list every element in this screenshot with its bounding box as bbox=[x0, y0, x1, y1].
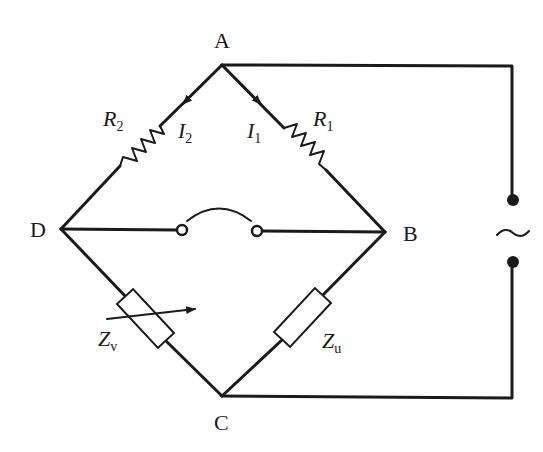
resistor-r2-icon bbox=[120, 126, 164, 166]
wire-switch-b bbox=[262, 231, 385, 232]
branch-d-b-detector bbox=[61, 209, 385, 237]
label-zu-subscript: u bbox=[334, 341, 341, 356]
label-r1-subscript: 1 bbox=[326, 119, 333, 134]
wire-b-zu bbox=[322, 232, 385, 296]
label-zv: Zv bbox=[98, 326, 117, 354]
label-r2-subscript: 2 bbox=[116, 119, 123, 134]
label-r1-symbol: R bbox=[312, 106, 327, 131]
source-terminal-bottom bbox=[507, 256, 519, 268]
label-r1: R1 bbox=[312, 106, 333, 134]
switch-arc-icon bbox=[187, 209, 251, 222]
wire-c-to-source bbox=[222, 262, 512, 398]
source-terminal-top bbox=[507, 194, 519, 206]
label-zu-symbol: Z bbox=[322, 328, 335, 353]
switch-terminal-right bbox=[252, 226, 262, 236]
label-i2-subscript: 2 bbox=[185, 131, 192, 146]
wire-r1-b bbox=[326, 170, 385, 232]
label-zv-subscript: v bbox=[110, 339, 117, 354]
wire-zv-c bbox=[165, 340, 222, 396]
label-zu: Zu bbox=[322, 328, 341, 356]
wire-d-switch bbox=[61, 229, 177, 230]
bridge-circuit-diagram: A D B C R2 R1 I2 I1 Zv Zu bbox=[0, 0, 543, 452]
label-i1-subscript: 1 bbox=[254, 131, 261, 146]
node-label-c: C bbox=[214, 410, 229, 435]
node-label-a: A bbox=[214, 28, 230, 53]
label-i1: I1 bbox=[246, 118, 261, 146]
branch-d-c bbox=[61, 229, 222, 396]
wire-d-zv bbox=[61, 229, 126, 297]
switch-terminal-left bbox=[177, 225, 187, 235]
label-i2: I2 bbox=[177, 118, 192, 146]
wire-a-to-source bbox=[222, 65, 512, 200]
label-r2: R2 bbox=[102, 106, 123, 134]
branch-a-b bbox=[222, 65, 385, 232]
wire-zu-c bbox=[222, 339, 283, 396]
label-r2-symbol: R bbox=[102, 106, 117, 131]
current-i2-arrow-icon bbox=[183, 77, 210, 104]
impedance-zv-box-icon bbox=[117, 289, 174, 348]
branch-b-c bbox=[222, 232, 385, 396]
ac-source-tilde-icon bbox=[497, 230, 529, 236]
node-label-d: D bbox=[30, 217, 46, 242]
node-label-b: B bbox=[403, 221, 418, 246]
current-i1-arrow-icon bbox=[234, 77, 261, 104]
label-zv-symbol: Z bbox=[98, 326, 111, 351]
branch-a-d bbox=[61, 65, 222, 229]
wire-r2-d bbox=[61, 166, 120, 229]
